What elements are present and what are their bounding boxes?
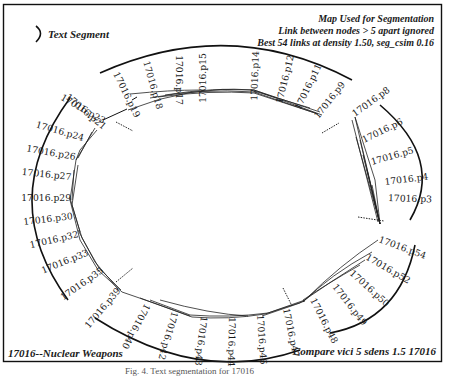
node-label-p15: 17016.p15 <box>197 53 208 103</box>
figure-caption: Fig. 4. Text segmentation for 17016 <box>125 366 254 376</box>
segment-break <box>358 217 384 221</box>
document-title: 17016--Nuclear Weapons <box>8 347 123 359</box>
segment-break <box>283 288 292 306</box>
node-label-p48: 17016.p48 <box>308 296 340 345</box>
node-label-p40: 17016.p40 <box>120 302 153 351</box>
figure-frame <box>4 5 442 362</box>
node-labels: 17016.p21 17016.p19 17016.p18 17016.p17 … <box>21 51 432 367</box>
node-label-p8: 17016.p8 <box>350 84 392 119</box>
node-label-p35: 17016.p35 <box>58 265 105 303</box>
segment-break <box>116 122 133 131</box>
segment-bracket-icon <box>36 26 41 42</box>
node-label-p27: 17016.p27 <box>21 166 72 182</box>
node-label-p52: 17016.p52 <box>364 251 413 285</box>
node-label-p44: 17016.p44 <box>226 317 238 367</box>
node-label-p17: 17016.p17 <box>174 55 185 105</box>
node-label-p9: 17016.p9 <box>311 79 347 120</box>
segment-tick <box>103 109 127 120</box>
links <box>70 89 380 318</box>
node-label-p30: 17016.p30 <box>23 210 74 227</box>
node-label-p42: 17016.p42 <box>156 310 180 361</box>
header-line-2: Link between nodes > 5 apart ignored <box>277 25 435 36</box>
node-label-p18: 17016.p18 <box>141 60 165 111</box>
node-label-p43: 17016.p43 <box>193 316 210 367</box>
node-label-p12: 17016.p12 <box>273 54 296 105</box>
header-line-3: Best 54 links at density 1.50, seg_csim … <box>256 37 434 48</box>
legend-label: Text Segment <box>48 28 110 40</box>
node-label-p33: 17016.p33 <box>40 247 90 276</box>
node-label-p24: 17016.p24 <box>35 119 86 143</box>
node-label-p39: 17016.p39 <box>82 285 122 330</box>
segment-break <box>322 123 339 133</box>
node-label-p29: 17016.p29 <box>21 192 71 203</box>
segment-break <box>116 268 133 282</box>
node-label-p26: 17016.p26 <box>26 143 77 162</box>
node-label-p23: 17016.p23 <box>59 91 108 125</box>
compare-label: Compare vici 5 sdens 1.5 17016 <box>293 345 436 357</box>
node-label-p3: 17016.p3 <box>388 192 432 205</box>
node-label-p14: 17016.p14 <box>248 51 261 101</box>
node-label-p6: 17016.p6 <box>360 116 404 145</box>
segmentation-map-figure: Text Segment Map Used for Segmentation L… <box>0 0 449 378</box>
node-label-p46: 17016.p46 <box>255 314 269 365</box>
node-label-p19: 17016.p19 <box>111 70 143 120</box>
node-label-p54: 17016.p54 <box>377 234 428 261</box>
header-line-1: Map Used for Segmentation <box>317 13 434 24</box>
node-label-p5: 17016.p5 <box>370 144 415 167</box>
